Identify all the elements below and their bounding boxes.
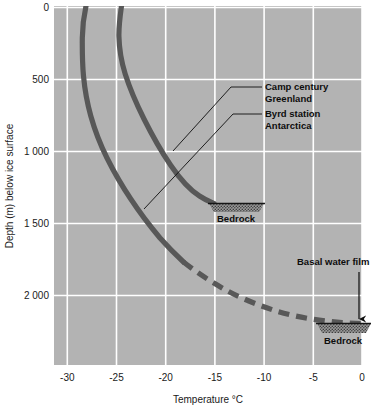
bedrock-symbol-camp-century bbox=[208, 204, 265, 213]
y-tick-2000: 2 000 bbox=[24, 290, 49, 301]
y-axis-tick-labels: 0 500 1 000 1 500 2 000 bbox=[24, 2, 49, 301]
camp-century-label-line2: Greenland bbox=[265, 93, 312, 104]
x-tick-0: 0 bbox=[359, 372, 365, 383]
x-tick--25: -25 bbox=[109, 372, 124, 383]
y-tick-1000: 1 000 bbox=[24, 146, 49, 157]
x-axis-tick-labels: -30 -25 -20 -15 -10 -5 0 bbox=[60, 372, 365, 383]
x-tick--30: -30 bbox=[60, 372, 75, 383]
byrd-station-label-line2: Antarctica bbox=[265, 120, 312, 131]
bedrock-label-camp-century: Bedrock bbox=[217, 213, 256, 224]
camp-century-label-line1: Camp century bbox=[265, 81, 329, 92]
x-tick--5: -5 bbox=[309, 372, 318, 383]
ice-temperature-depth-figure: Bedrock Bedrock Camp century Greenland B… bbox=[0, 0, 371, 412]
x-tick--20: -20 bbox=[158, 372, 173, 383]
y-tick-0: 0 bbox=[43, 2, 49, 13]
y-axis-title: Depth (m) below ice surface bbox=[4, 123, 15, 248]
y-tick-1500: 1 500 bbox=[24, 218, 49, 229]
plot-area-background bbox=[54, 6, 362, 365]
bedrock-symbol-byrd-station bbox=[316, 324, 371, 334]
x-axis-title: Temperature °C bbox=[173, 394, 243, 405]
byrd-station-label-line1: Byrd station bbox=[265, 108, 321, 119]
chart-canvas: Bedrock Bedrock Camp century Greenland B… bbox=[0, 0, 371, 412]
y-tick-500: 500 bbox=[32, 74, 49, 85]
basal-water-film-label: Basal water film bbox=[297, 256, 369, 267]
x-tick--10: -10 bbox=[257, 372, 272, 383]
bedrock-label-byrd-station: Bedrock bbox=[324, 335, 363, 346]
x-tick--15: -15 bbox=[208, 372, 223, 383]
